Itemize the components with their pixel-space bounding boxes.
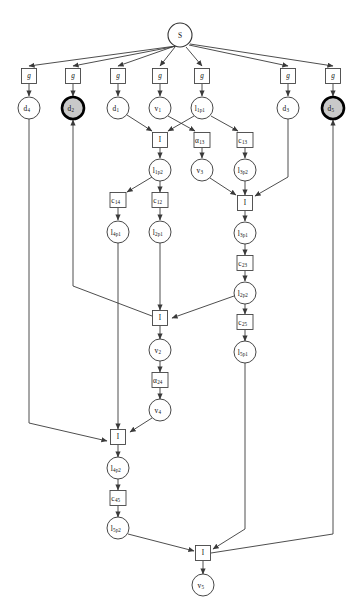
node-d2[interactable]: d2 — [62, 97, 84, 119]
node-S[interactable]: S — [168, 23, 192, 47]
node-sublabel-l5p2: 5p2 — [113, 527, 121, 533]
edge-I3-to-d2 — [73, 120, 152, 316]
node-l4p2[interactable]: l4p2 — [107, 457, 129, 479]
node-sublabel-c14: 14 — [115, 199, 121, 205]
node-d5[interactable]: d5 — [322, 97, 344, 119]
node-v4[interactable]: v4 — [149, 399, 171, 421]
node-sublabel-v1: 1 — [158, 107, 161, 113]
edge-l1p2-to-c14 — [127, 177, 152, 192]
node-l5p2[interactable]: l5p2 — [107, 517, 129, 539]
node-c12[interactable]: c12 — [152, 193, 168, 208]
node-I2[interactable]: I — [238, 196, 253, 211]
node-sublabel-l1p2: 1p2 — [155, 169, 163, 175]
node-v2[interactable]: v2 — [149, 339, 171, 361]
node-label-g1: g — [27, 72, 31, 80]
node-sublabel-l4p2: 4p2 — [113, 467, 121, 473]
node-sublabel-c45: 45 — [115, 497, 121, 503]
node-d3[interactable]: d3 — [277, 97, 299, 119]
node-sublabel-l2p1: 2p1 — [155, 231, 163, 237]
node-l5p1[interactable]: l5p1 — [234, 341, 256, 363]
node-c23[interactable]: c23 — [237, 256, 253, 271]
edge-S-to-g2 — [73, 46, 177, 66]
node-I5[interactable]: I — [196, 546, 211, 561]
node-d4[interactable]: d4 — [18, 97, 40, 119]
node-l1p1[interactable]: l1p1 — [191, 97, 213, 119]
edge-S-to-g1 — [29, 46, 176, 66]
edge-d1-to-I1 — [127, 115, 152, 131]
edge-I5-to-d5 — [211, 120, 333, 553]
node-sublabel-c23: 23 — [242, 262, 248, 268]
node-sublabel-l4p1: 4p1 — [113, 231, 121, 237]
node-sublabel-v3: 3 — [200, 169, 203, 175]
node-I4[interactable]: I — [111, 430, 126, 445]
edge-v4-to-I4 — [130, 418, 152, 432]
edge-S-to-g6 — [189, 45, 288, 66]
node-sublabel-l1p1: 1p1 — [197, 107, 205, 113]
node-sublabel-l5p1: 5p1 — [240, 351, 248, 357]
node-label-g2: g — [71, 72, 75, 80]
node-sublabel-d2: 2 — [71, 107, 74, 113]
node-sublabel-d1: 1 — [116, 107, 119, 113]
node-a24[interactable]: α24 — [152, 373, 168, 388]
node-label-S: S — [178, 31, 182, 40]
node-label-g4: g — [158, 72, 162, 80]
diagram-canvas: Sgggggggd4d2d1v1l1p1d3d5Iα13c13l1p2v3l3p… — [0, 0, 362, 611]
node-l4p1[interactable]: l4p1 — [107, 221, 129, 243]
node-sublabel-c13: 13 — [242, 139, 248, 145]
node-g3[interactable]: g — [111, 69, 126, 84]
node-c13[interactable]: c13 — [237, 133, 253, 148]
edge-S-to-g4 — [160, 47, 175, 66]
node-sublabel-c12: 12 — [157, 199, 163, 205]
edge-l1p1-to-c13 — [211, 116, 238, 131]
node-sublabel-l3p2: 3p2 — [240, 169, 248, 175]
node-sublabel-l3p1: 3p1 — [240, 232, 248, 238]
node-sublabel-a13: 13 — [199, 139, 205, 145]
node-v3[interactable]: v3 — [191, 159, 213, 181]
edge-d3-to-I2 — [255, 119, 288, 196]
node-g5[interactable]: g — [195, 69, 210, 84]
edge-v3-to-I2 — [210, 178, 236, 195]
node-v1[interactable]: v1 — [149, 97, 171, 119]
node-g2[interactable]: g — [66, 69, 81, 84]
node-l3p1[interactable]: l3p1 — [234, 222, 256, 244]
nodes-layer: Sgggggggd4d2d1v1l1p1d3d5Iα13c13l1p2v3l3p… — [18, 23, 344, 596]
node-l3p2[interactable]: l3p2 — [234, 159, 256, 181]
node-sublabel-d4: 4 — [27, 107, 30, 113]
node-v5[interactable]: v5 — [192, 574, 214, 596]
node-d1[interactable]: d1 — [107, 97, 129, 119]
node-sublabel-c25: 25 — [242, 321, 248, 327]
node-l1p2[interactable]: l1p2 — [149, 159, 171, 181]
node-sublabel-v5: 5 — [201, 584, 204, 590]
node-g6[interactable]: g — [281, 69, 296, 84]
edge-S-to-g5 — [186, 47, 202, 66]
node-label-g5: g — [200, 72, 204, 80]
node-label-g6: g — [286, 72, 290, 80]
node-a13[interactable]: α13 — [194, 133, 210, 148]
node-sublabel-v2: 2 — [158, 349, 161, 355]
node-c14[interactable]: c14 — [110, 193, 126, 208]
node-sublabel-d3: 3 — [286, 107, 289, 113]
node-g4[interactable]: g — [153, 69, 168, 84]
node-c25[interactable]: c25 — [237, 315, 253, 330]
node-g7[interactable]: g — [326, 69, 341, 84]
node-I1[interactable]: I — [153, 133, 168, 148]
node-l2p1[interactable]: l2p1 — [149, 221, 171, 243]
edges-layer — [29, 44, 333, 574]
andor-graph: Sgggggggd4d2d1v1l1p1d3d5Iα13c13l1p2v3l3p… — [0, 0, 362, 611]
node-label-g7: g — [331, 72, 335, 80]
edge-l5p1-to-I5 — [213, 363, 245, 549]
edge-S-to-g7 — [190, 44, 333, 66]
node-g1[interactable]: g — [22, 69, 37, 84]
node-sublabel-d5: 5 — [331, 107, 334, 113]
node-sublabel-v4: 4 — [158, 409, 161, 415]
node-I3[interactable]: I — [153, 311, 168, 326]
edge-l5p2-to-I5 — [128, 534, 194, 551]
node-label-g3: g — [116, 72, 120, 80]
edge-l2p2-to-I3 — [172, 296, 234, 318]
node-c45[interactable]: c45 — [110, 491, 126, 506]
edge-d4-to-I4 — [29, 119, 107, 441]
node-sublabel-l2p2: 2p2 — [240, 292, 248, 298]
node-l2p2[interactable]: l2p2 — [234, 282, 256, 304]
node-sublabel-a24: 24 — [157, 379, 163, 385]
